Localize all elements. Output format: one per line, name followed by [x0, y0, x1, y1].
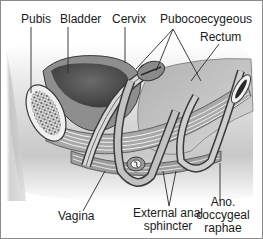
label-pubis: Pubis [21, 13, 51, 26]
label-cervix: Cervix [112, 13, 146, 26]
diagram-frame: Pubis Bladder Cervix Pubocoecygeous Rect… [0, 0, 263, 239]
external-anal-sphincter [127, 157, 145, 171]
label-pubococcygeous: Pubocoecygeous [160, 13, 252, 26]
label-rectum: Rectum [200, 31, 241, 44]
label-bladder: Bladder [60, 13, 101, 26]
label-ano-coccygeal-line3: raphae [196, 222, 250, 235]
label-vagina: Vagina [58, 210, 94, 223]
label-ano-coccygeal-raphae: Ano. coccygeal raphae [196, 196, 250, 235]
